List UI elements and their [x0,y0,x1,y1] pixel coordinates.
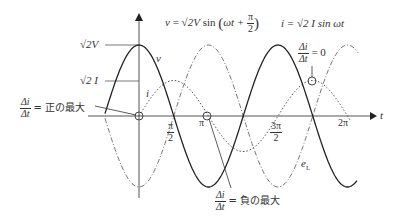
eL-curve-label: eL [301,158,310,172]
tick-three-pi-half: 3π2 [270,121,282,143]
pos-max-den: Δt [21,109,30,120]
neg-max-den: Δt [216,202,225,213]
neg-max-text: = 負の最大 [228,195,280,206]
v-eq-arg: ωt + [223,16,244,28]
tick-pi: π [199,118,204,128]
t-axis-arrow-icon [370,112,377,120]
sqrt2I-label: √2 I [80,75,98,86]
v-eq-sin: sin [203,16,216,28]
sqrt2V-label: √2V [80,39,98,50]
i-equation: i = √2 I sin ωt [281,18,344,29]
v-eq-frac-den: 2 [248,24,253,35]
tick-pi-half-den: 2 [168,133,173,144]
y-axis-arrow-icon [135,13,143,21]
v-eq-lhs: v [165,16,170,28]
zero-den: Δt [299,54,308,65]
zero-text: = 0 [311,46,325,58]
tick-pi-half: π2 [167,121,174,143]
t-axis-label: t [380,110,383,121]
v-eq-frac: π2 [247,12,254,34]
tick-pi-half-num: π [167,121,174,133]
tick-3pi-half-num: 3π [270,121,282,133]
v-eq-frac-num: π [247,12,254,24]
pos-max-num: Δi [20,97,31,109]
tick-3pi-half-den: 2 [274,133,279,144]
v-equation: v = √2V sin (ωt + π2) [165,12,259,34]
pos-max-leader [95,106,136,115]
zero-num: Δi [298,42,309,54]
i-curve-label: i [146,88,149,99]
pos-max-text: = 正の最大 [33,102,85,113]
v-curve-label: v [156,53,161,64]
zero-annotation: ΔiΔt = 0 [298,42,326,64]
pos-max-annotation: ΔiΔt = 正の最大 [20,97,85,119]
neg-max-annotation: ΔiΔt = 負の最大 [215,190,280,212]
eL-label-sub: L [306,164,310,172]
tick-two-pi: 2π [338,118,348,128]
neg-max-num: Δi [215,190,226,202]
v-eq-coef: √2V [182,16,200,28]
